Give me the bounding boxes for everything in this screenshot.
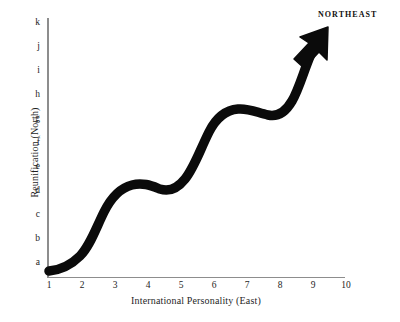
trend-arrow-curve <box>0 0 400 322</box>
curve-path <box>49 35 322 271</box>
chart-figure: k j i h g f e d c b a 1 2 3 4 5 6 7 8 9 … <box>0 0 400 322</box>
curve-stroke-group <box>49 27 328 271</box>
